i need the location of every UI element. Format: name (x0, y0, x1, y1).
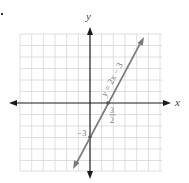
graph-canvas: y x y = 2x − 3 −3 3 2 (0, 0, 189, 183)
x-intercept-numerator: 3 (110, 106, 114, 115)
y-axis-label: y (85, 10, 91, 22)
x-axis-left-arrow-icon (9, 100, 17, 106)
y-intercept-point (88, 135, 92, 139)
x-intercept-point (106, 101, 110, 105)
x-axis-right-arrow-icon (163, 100, 171, 106)
corner-mark (1, 13, 3, 15)
y-axis-up-arrow-icon (87, 27, 93, 35)
y-intercept-label: −3 (77, 128, 87, 138)
x-axis-label: x (174, 96, 180, 108)
y-axis-down-arrow-icon (87, 171, 93, 179)
line-arrow-up-icon (138, 37, 145, 46)
x-intercept-denominator: 2 (110, 116, 114, 125)
